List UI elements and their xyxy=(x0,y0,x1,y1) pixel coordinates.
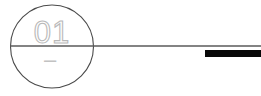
balloon-number-label: 01 xyxy=(34,15,70,50)
line-drawing-svg: 01 – xyxy=(0,0,261,96)
solid-black-bar xyxy=(205,50,261,57)
balloon-dash-sublabel: – xyxy=(44,47,57,72)
drawing-canvas: 01 – xyxy=(0,0,261,96)
